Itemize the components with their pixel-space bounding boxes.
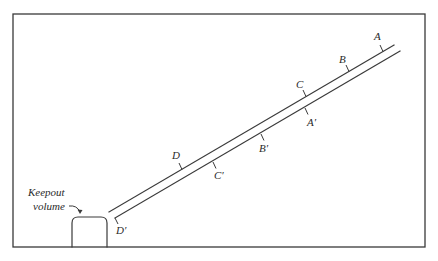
keepout-arrowhead-icon [78, 210, 83, 215]
marker-a-prime-label: A′ [306, 116, 317, 128]
figure-frame [13, 14, 425, 247]
marker-b-tick [346, 65, 349, 72]
keepout-label-line2: volume [33, 200, 65, 212]
marker-b-prime-tick [261, 134, 264, 141]
marker-a-prime-tick [305, 108, 308, 115]
keepout-diagram: Keepout volume A B C D A′ B′ C′ D′ [0, 0, 438, 261]
marker-a-tick [380, 45, 383, 52]
lower-rail [115, 51, 400, 218]
marker-c-prime-tick [213, 162, 216, 169]
marker-c-prime-label: C′ [214, 169, 224, 181]
marker-d-prime-label: D′ [115, 224, 127, 236]
upper-rail [109, 45, 394, 212]
marker-a-label: A [373, 30, 381, 42]
keepout-label-line1: Keepout [27, 186, 66, 198]
keepout-volume-box [72, 217, 107, 247]
marker-c-label: C [296, 78, 304, 90]
keepout-arrow-icon [69, 206, 80, 212]
marker-b-label: B [339, 53, 346, 65]
marker-b-prime-label: B′ [259, 142, 269, 154]
marker-d-tick [179, 163, 182, 170]
marker-d-label: D [171, 149, 180, 161]
marker-c-tick [303, 90, 306, 97]
